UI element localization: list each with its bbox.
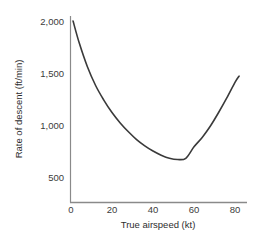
x-axis-title: True airspeed (kt) [121, 219, 196, 230]
x-tick-label-40: 40 [148, 204, 159, 215]
line-chart: 2,000 1,500 1,000 500 0 20 40 60 80 True… [0, 0, 256, 238]
y-tick-label-500: 500 [48, 172, 64, 183]
x-tick-label-20: 20 [107, 204, 118, 215]
y-tick-label-2000: 2,000 [40, 16, 64, 27]
x-tick-label-0: 0 [68, 204, 73, 215]
y-tick-label-1000: 1,000 [40, 120, 64, 131]
y-axis-title: Rate of descent (ft/min) [13, 60, 24, 159]
x-tick-label-60: 60 [189, 204, 200, 215]
descent-rate-curve [73, 21, 239, 160]
x-tick-label-80: 80 [230, 204, 241, 215]
y-tick-label-1500: 1,500 [40, 68, 64, 79]
chart-container: 2,000 1,500 1,000 500 0 20 40 60 80 True… [0, 0, 256, 238]
